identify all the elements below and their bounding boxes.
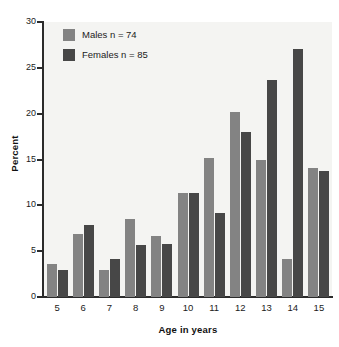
bar-females-age-13 bbox=[267, 80, 277, 297]
x-axis-tick-label-6: 6 bbox=[70, 303, 96, 313]
y-axis-tick bbox=[37, 296, 44, 298]
x-axis-tick-label-11: 11 bbox=[201, 303, 227, 313]
bar-females-age-8 bbox=[136, 245, 146, 297]
y-axis-tick-label-text: 30 bbox=[2, 17, 36, 26]
bar-females-age-14 bbox=[293, 49, 303, 297]
bar-males-age-10 bbox=[178, 193, 188, 298]
y-axis-tick bbox=[37, 159, 44, 161]
bar-males-age-14 bbox=[282, 259, 292, 297]
chart-legend: Males n = 74 Females n = 85 bbox=[63, 26, 148, 66]
legend-label-males: Males n = 74 bbox=[82, 29, 137, 40]
x-axis-tick-label-10: 10 bbox=[175, 303, 201, 313]
bar-males-age-11 bbox=[204, 158, 214, 297]
x-axis-tick-label-13: 13 bbox=[254, 303, 280, 313]
x-axis-tick-label-9: 9 bbox=[149, 303, 175, 313]
bar-males-age-13 bbox=[256, 160, 266, 297]
x-axis-tick-label-7: 7 bbox=[96, 303, 122, 313]
bar-females-age-11 bbox=[215, 213, 225, 297]
bar-females-age-9 bbox=[162, 244, 172, 297]
bar-males-age-15 bbox=[308, 168, 318, 297]
bar-males-age-8 bbox=[125, 219, 135, 297]
bar-females-age-12 bbox=[241, 132, 251, 297]
x-axis-tick-label-5: 5 bbox=[44, 303, 70, 313]
bar-females-age-7 bbox=[110, 259, 120, 298]
y-axis-tick-label: 0 bbox=[0, 292, 36, 302]
y-axis-tick bbox=[37, 250, 44, 252]
y-axis-tick bbox=[37, 204, 44, 206]
bar-males-age-5 bbox=[47, 264, 57, 297]
bar-females-age-10 bbox=[189, 193, 199, 298]
y-axis-tick-label-text: 10 bbox=[2, 200, 36, 209]
bar-males-age-7 bbox=[99, 270, 109, 297]
y-axis-tick-label-text: 5 bbox=[2, 246, 36, 255]
x-axis-tick-label-12: 12 bbox=[227, 303, 253, 313]
x-axis-tick-label-14: 14 bbox=[280, 303, 306, 313]
legend-swatch-females-icon bbox=[63, 49, 75, 61]
legend-item-males: Males n = 74 bbox=[63, 26, 148, 43]
y-axis-tick bbox=[37, 21, 44, 23]
bar-females-age-6 bbox=[84, 225, 94, 297]
y-axis-tick-label-text: 25 bbox=[2, 63, 36, 72]
bar-chart: 051015202530 56789101112131415 Percent A… bbox=[0, 0, 339, 347]
y-axis-tick-label: 5 bbox=[0, 246, 36, 256]
legend-item-females: Females n = 85 bbox=[63, 46, 148, 63]
y-axis-tick-label: 25 bbox=[0, 63, 36, 73]
bar-females-age-15 bbox=[319, 171, 329, 297]
bar-males-age-6 bbox=[73, 234, 83, 297]
bar-males-age-12 bbox=[230, 112, 240, 297]
y-axis-title: Percent bbox=[9, 114, 20, 194]
y-axis-tick-label: 10 bbox=[0, 200, 36, 210]
legend-label-females: Females n = 85 bbox=[82, 49, 148, 60]
bar-females-age-5 bbox=[58, 270, 68, 297]
y-axis-tick bbox=[37, 113, 44, 115]
x-axis-tick-label-15: 15 bbox=[306, 303, 332, 313]
y-axis-tick bbox=[37, 67, 44, 69]
y-axis-tick-label-text: 0 bbox=[2, 292, 36, 301]
x-axis-tick-label-8: 8 bbox=[123, 303, 149, 313]
x-axis-title: Age in years bbox=[44, 324, 332, 335]
y-axis-tick-label: 30 bbox=[0, 17, 36, 27]
bar-males-age-9 bbox=[151, 236, 161, 297]
legend-swatch-males-icon bbox=[63, 29, 75, 41]
